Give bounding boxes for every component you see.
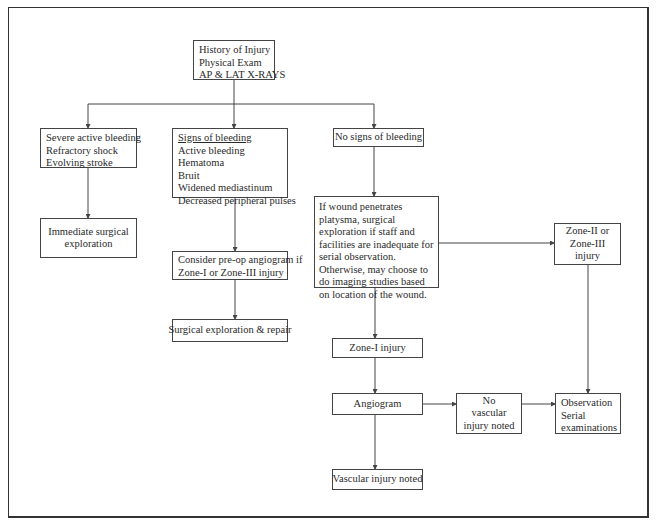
node-line: Angiogram <box>354 398 402 411</box>
node-line: AP & LAT X-RAYS <box>199 69 269 82</box>
node-line: Vascular injury noted <box>333 473 423 486</box>
node-line: Zone-I or Zone-III injury <box>178 267 282 280</box>
node-line: Consider pre-op angiogram if <box>178 254 282 267</box>
node-paragraph: If wound penetrates platysma, surgical e… <box>319 201 434 300</box>
node-line: Immediate surgical <box>48 226 129 239</box>
node-line: Widened mediastinum <box>178 182 282 195</box>
node-surgical-exploration-repair: Surgical exploration & repair <box>172 319 288 342</box>
node-line: Physical Exam <box>199 57 269 70</box>
node-zone-i-injury: Zone-I injury <box>332 338 423 358</box>
node-initial-assessment: History of Injury Physical Exam AP & LAT… <box>193 40 275 80</box>
node-line: Bruit <box>178 170 282 183</box>
node-vascular-injury-noted: Vascular injury noted <box>332 469 423 490</box>
node-line: Hematoma <box>178 157 282 170</box>
node-line: Zone-I injury <box>349 342 405 355</box>
node-severe-bleeding: Severe active bleeding Refractory shock … <box>40 128 137 168</box>
node-line: Active bleeding <box>178 145 282 158</box>
node-line: vascular <box>472 407 507 420</box>
node-line: History of Injury <box>199 44 269 57</box>
node-line: Zone-III <box>570 238 606 251</box>
node-immediate-surgical-exploration: Immediate surgical exploration <box>40 218 137 258</box>
node-line: examinations <box>561 422 615 435</box>
node-line: No signs of bleeding <box>335 131 422 144</box>
node-no-vascular-injury: No vascular injury noted <box>456 393 522 434</box>
node-line: Zone-II or <box>566 225 609 238</box>
node-line: injury noted <box>463 420 514 433</box>
node-line: Severe active bleeding <box>46 132 131 145</box>
node-no-signs-of-bleeding: No signs of bleeding <box>333 128 424 147</box>
node-line: exploration <box>65 238 113 251</box>
node-line: Surgical exploration & repair <box>168 324 291 337</box>
node-signs-of-bleeding: Signs of bleeding Active bleeding Hemato… <box>172 128 288 198</box>
node-angiogram: Angiogram <box>332 393 423 415</box>
node-observation-serial-exams: Observation Serial examinations <box>555 393 621 434</box>
node-consider-preop-angiogram: Consider pre-op angiogram if Zone-I or Z… <box>172 251 288 280</box>
node-line: injury <box>575 250 600 263</box>
node-heading: Signs of bleeding <box>178 132 282 145</box>
node-line: Serial <box>561 410 615 423</box>
node-line: Observation <box>561 397 615 410</box>
node-line: Refractory shock <box>46 145 131 158</box>
node-line: Decreased peripheral pulses <box>178 195 282 208</box>
node-line: No <box>483 395 496 408</box>
node-zone-ii-iii-injury: Zone-II or Zone-III injury <box>554 223 621 265</box>
node-line: Evolving stroke <box>46 157 131 170</box>
node-wound-penetrates-platysma: If wound penetrates platysma, surgical e… <box>314 196 439 288</box>
